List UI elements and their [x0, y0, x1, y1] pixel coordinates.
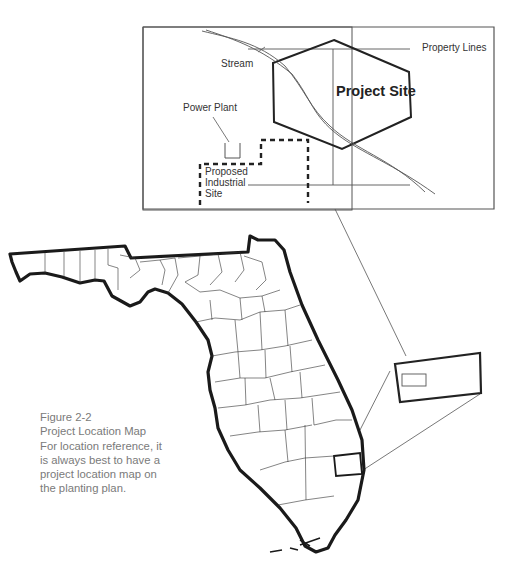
connector-line	[335, 209, 406, 356]
proposed-label-line1: Proposed	[205, 166, 248, 177]
figure-number: Figure 2-2	[40, 410, 180, 424]
connector-line	[360, 371, 390, 430]
caption-line: project location map on	[40, 467, 180, 481]
figure-title: Project Location Map	[40, 424, 180, 438]
caption-line: the planting plan.	[40, 481, 180, 495]
florida-state-map	[10, 236, 364, 552]
locator-box	[395, 353, 481, 402]
connector-line	[360, 394, 480, 472]
stream-label: Stream	[221, 58, 253, 69]
power-plant-leader	[213, 117, 229, 142]
project-site-label: Project Site	[336, 83, 416, 99]
power-plant-symbol	[225, 143, 240, 158]
caption-line: For location reference, it	[40, 439, 180, 453]
power-plant-label: Power Plant	[183, 102, 237, 113]
proposed-label-line3: Site	[205, 188, 222, 199]
caption-line: is always best to have a	[40, 453, 180, 467]
figure-caption: Figure 2-2 Project Location Map For loca…	[40, 410, 180, 496]
proposed-label-line2: Industrial	[205, 177, 246, 188]
property-lines-label: Property Lines	[422, 42, 486, 53]
